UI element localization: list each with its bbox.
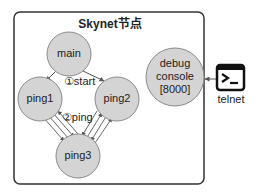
node-main: main xyxy=(47,32,91,76)
node-ping1-label: ping1 xyxy=(27,92,54,104)
debug-console-line3: [8000] xyxy=(160,83,191,95)
skynet-diagram: Skynet节点 ①start ②ping main ping1 ping2 p… xyxy=(0,0,256,194)
node-ping3-label: ping3 xyxy=(65,149,92,161)
container-title: Skynet节点 xyxy=(78,16,141,31)
terminal-icon xyxy=(217,65,244,90)
node-ping2-label: ping2 xyxy=(104,92,131,104)
node-main-label: main xyxy=(57,47,81,59)
ping-edge-label: ②ping xyxy=(62,111,93,123)
start-edge-label: ①start xyxy=(64,75,95,87)
telnet-label: telnet xyxy=(218,93,245,105)
node-ping1: ping1 xyxy=(18,77,62,121)
debug-console-line2: console xyxy=(156,70,194,82)
node-ping2: ping2 xyxy=(95,77,139,121)
node-debug-console: debug console [8000] xyxy=(146,48,204,106)
node-ping3: ping3 xyxy=(56,134,100,178)
debug-console-line1: debug xyxy=(160,57,191,69)
